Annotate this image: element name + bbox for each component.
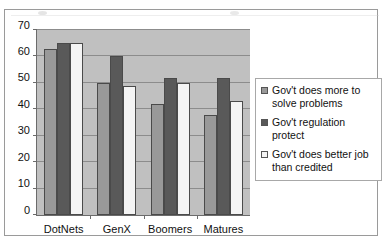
x-axis-label-matures: Matures [204, 223, 244, 235]
y-axis-label-70: 70 [18, 19, 30, 30]
x-tick-1 [90, 215, 91, 219]
bar-genx-series-1 [97, 83, 110, 215]
bar-boomers-series-3 [177, 83, 190, 215]
legend-label-3: Gov't does better job than credited [272, 148, 377, 173]
bar-dotnets-series-1 [44, 49, 57, 216]
y-axis-label-40: 40 [18, 98, 30, 109]
y-axis-label-50: 50 [18, 72, 30, 83]
chart-frame: 010203040506070 DotNetsGenXBoomersMature… [4, 9, 378, 236]
bar-matures-series-2 [217, 78, 230, 215]
bar-genx-series-3 [123, 86, 136, 216]
legend-item-1: Gov't does more to solve problems [261, 84, 377, 109]
y-tick-30 [33, 135, 37, 136]
crop-artifact-rule [11, 15, 379, 16]
y-tick-10 [33, 188, 37, 189]
legend-label-2: Gov't regulation protect [272, 116, 377, 141]
x-axis-label-boomers: Boomers [148, 223, 192, 235]
legend-label-1: Gov't does more to solve problems [272, 84, 377, 109]
legend-item-2: Gov't regulation protect [261, 116, 377, 141]
bar-group-matures [204, 30, 243, 215]
bar-group-dotnets [44, 30, 83, 215]
y-tick-20 [33, 161, 37, 162]
legend-swatch-icon-3 [261, 151, 268, 158]
x-tick-3 [197, 215, 198, 219]
y-tick-50 [33, 82, 37, 83]
x-axis-label-dotnets: DotNets [44, 223, 84, 235]
legend-item-3: Gov't does better job than credited [261, 148, 377, 173]
bar-boomers-series-1 [151, 104, 164, 215]
y-tick-70 [33, 29, 37, 30]
x-tick-2 [144, 215, 145, 219]
bar-matures-series-3 [230, 101, 243, 215]
y-tick-40 [33, 108, 37, 109]
chart-legend: Gov't does more to solve problemsGov't r… [255, 78, 382, 181]
y-axis-label-30: 30 [18, 125, 30, 136]
legend-swatch-icon-1 [261, 87, 268, 94]
y-axis-label-10: 10 [18, 178, 30, 189]
legend-swatch-icon-2 [261, 119, 268, 126]
bar-group-boomers [151, 30, 190, 215]
bar-boomers-series-2 [164, 78, 177, 215]
y-tick-0 [33, 214, 37, 215]
bar-matures-series-1 [204, 115, 217, 215]
bar-group-genx [97, 30, 136, 215]
y-axis-label-20: 20 [18, 151, 30, 162]
x-axis-label-genx: GenX [103, 223, 131, 235]
y-axis-label-0: 0 [24, 204, 30, 215]
bar-genx-series-2 [110, 56, 123, 215]
y-tick-60 [33, 55, 37, 56]
plot-area: 010203040506070 DotNetsGenXBoomersMature… [36, 30, 250, 216]
y-axis-label-60: 60 [18, 45, 30, 56]
bar-dotnets-series-2 [57, 43, 70, 215]
bar-dotnets-series-3 [70, 43, 83, 215]
